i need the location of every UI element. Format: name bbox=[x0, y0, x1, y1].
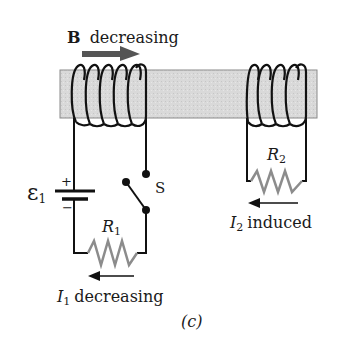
current2-arrow-icon bbox=[248, 198, 298, 208]
field-text: decreasing bbox=[90, 28, 179, 47]
resistor2-label: R2 bbox=[266, 145, 286, 166]
resistor2-icon bbox=[251, 171, 302, 192]
switch-label: S bbox=[155, 179, 165, 197]
current2-label: I2induced bbox=[229, 213, 312, 234]
battery-icon bbox=[55, 191, 95, 199]
field-symbol: B bbox=[67, 28, 81, 47]
battery-plus: + bbox=[61, 174, 72, 189]
resistor1-label: R1 bbox=[101, 217, 121, 238]
current1-label: I1decreasing bbox=[56, 287, 164, 308]
field-label: B decreasing bbox=[67, 28, 179, 47]
switch-icon[interactable] bbox=[122, 170, 150, 214]
induction-circuit-diagram: B decreasing bbox=[0, 0, 345, 347]
emf-label: ε1 bbox=[27, 180, 46, 206]
resistor1-icon bbox=[88, 241, 137, 265]
panel-label: (c) bbox=[181, 312, 202, 331]
current1-arrow-icon bbox=[88, 271, 134, 281]
battery-minus: − bbox=[62, 200, 73, 215]
field-arrow-icon bbox=[82, 46, 140, 61]
